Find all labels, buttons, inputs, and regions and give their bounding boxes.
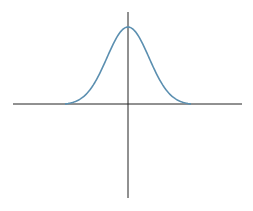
gaussian-chart — [0, 0, 253, 211]
